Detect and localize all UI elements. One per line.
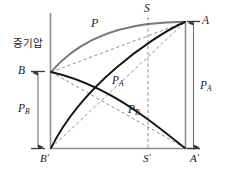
point-label-B-prime-main: B: [40, 152, 47, 164]
point-label-S-prime: S′: [143, 153, 151, 164]
curve-label-PA-subscript: A: [119, 79, 124, 88]
point-label-A-prime-mark: ′: [197, 152, 199, 163]
bracket-pb-group: [31, 72, 45, 149]
point-label-A: A: [202, 15, 209, 27]
curve-label-PB-main: P: [128, 103, 135, 115]
bracket-pa-group: [187, 22, 200, 149]
curve-label-PA: PA: [112, 75, 124, 88]
point-label-B-prime-mark: ′: [47, 152, 49, 163]
curve-label-PB: PB: [128, 104, 140, 117]
vapor-pressure-diagram: 증기압 P PA PB S S′ A A′ B B′ PA PB: [0, 0, 227, 177]
bracket-label-PB-main: P: [18, 102, 25, 114]
curve-label-PB-subscript: B: [135, 108, 140, 117]
bracket-label-PA-main: P: [200, 79, 207, 91]
point-label-S-prime-mark: ′: [149, 152, 151, 163]
diagram-canvas: [0, 0, 227, 177]
y-axis-title: 증기압: [13, 38, 42, 49]
point-label-S: S: [144, 3, 150, 15]
bracket-label-PA-subscript: A: [207, 84, 212, 93]
point-label-B-prime: B′: [40, 153, 49, 164]
curve-label-PA-main: P: [112, 74, 119, 86]
bracket-label-PB: PB: [18, 103, 30, 116]
point-label-A-prime: A′: [190, 153, 199, 164]
bracket-label-PB-subscript: B: [25, 107, 30, 116]
curve-label-total-P: P: [91, 17, 98, 29]
point-label-A-prime-main: A: [190, 152, 197, 164]
bracket-label-PA: PA: [200, 80, 212, 93]
point-label-B: B: [18, 65, 25, 77]
